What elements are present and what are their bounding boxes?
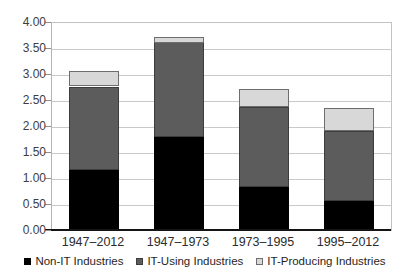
y-axis-tick-label: 2.50 (2, 93, 46, 107)
x-axis-category-label: 1947–1973 (130, 235, 226, 249)
legend-item-it-producing-industries: IT-Producing Industries (256, 255, 385, 267)
bar-segment-it-using-industries (69, 87, 119, 170)
legend-marker-it-using-industries (136, 258, 143, 265)
gridline (52, 49, 391, 50)
y-axis-tick-label: 1.00 (2, 171, 46, 185)
legend-label: IT-Using Industries (147, 255, 243, 267)
bar-segment-it-producing-industries (324, 108, 374, 131)
legend-label: IT-Producing Industries (267, 255, 385, 267)
bar-segment-it-producing-industries (239, 89, 289, 107)
bar-segment-non-it-industries (154, 137, 204, 231)
stacked-bar-chart: Non-IT IndustriesIT-Using IndustriesIT-P… (0, 0, 410, 279)
y-axis-tick-label: 1.50 (2, 145, 46, 159)
bar-segment-it-using-industries (239, 107, 289, 187)
y-axis-tick-label: 3.00 (2, 67, 46, 81)
legend-label: Non-IT Industries (35, 255, 123, 267)
x-axis-line (45, 229, 391, 231)
x-axis-category-label: 1973–1995 (215, 235, 311, 249)
bar-segment-it-producing-industries (69, 71, 119, 86)
bar-segment-it-using-industries (324, 131, 374, 201)
bar-segment-it-producing-industries (154, 37, 204, 43)
y-axis-tick-label: 2.00 (2, 119, 46, 133)
legend: Non-IT IndustriesIT-Using IndustriesIT-P… (0, 253, 410, 269)
bar-segment-it-using-industries (154, 42, 204, 137)
bar-segment-non-it-industries (239, 187, 289, 231)
legend-item-non-it-industries: Non-IT Industries (24, 255, 123, 267)
legend-marker-non-it-industries (24, 258, 31, 265)
bar-segment-non-it-industries (69, 170, 119, 231)
plot-area (51, 22, 392, 231)
legend-item-it-using-industries: IT-Using Industries (136, 255, 243, 267)
y-axis-tick-label: 4.00 (2, 15, 46, 29)
x-axis-category-label: 1947–2012 (45, 235, 141, 249)
y-axis-tick-label: 0.50 (2, 197, 46, 211)
bar-segment-non-it-industries (324, 201, 374, 231)
y-axis-tick-label: 3.50 (2, 41, 46, 55)
legend-marker-it-producing-industries (256, 258, 263, 265)
y-axis-tick-label: 0.00 (2, 223, 46, 237)
x-axis-category-label: 1995–2012 (300, 235, 396, 249)
